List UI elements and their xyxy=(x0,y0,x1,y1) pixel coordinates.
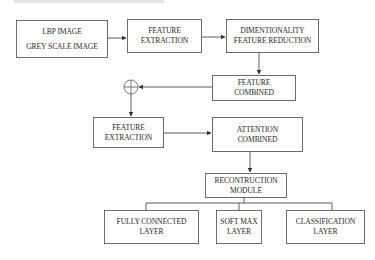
fully-connected-layer-node: FULLY CONNECTED LAYER xyxy=(104,210,199,244)
node-label-line: SOFT MAX xyxy=(220,217,257,227)
feature-extraction-node-2: FEATURE EXTRACTION xyxy=(93,117,164,148)
node-label-line: FEATURE REDUCTION xyxy=(234,36,311,46)
reconstruction-module-node: RECONTRUCTION MODULE xyxy=(205,173,287,198)
sum-junction-icon xyxy=(124,80,138,94)
node-label-line: EXTRACTION xyxy=(141,36,189,46)
node-label-line: DIMENTIONALITY xyxy=(240,26,304,36)
node-label-line: LAYER xyxy=(313,227,337,237)
node-label-line: FEATURE xyxy=(148,26,181,36)
node-label-line: EXTRACTION xyxy=(105,133,153,143)
attention-combined-node: ATTENTION COMBINED xyxy=(212,117,303,152)
node-label-line: COMBINED xyxy=(234,88,274,98)
node-label-line: ATTENTION xyxy=(237,125,278,135)
node-label-line: MODULE xyxy=(230,186,262,196)
node-label-line: FEATURE xyxy=(238,78,271,88)
classification-layer-node: CLASSIFICATION LAYER xyxy=(286,210,365,244)
node-label-line: COMBINED xyxy=(238,135,278,145)
node-label-line: FEATURE xyxy=(112,123,145,133)
softmax-layer-node: SOFT MAX LAYER xyxy=(216,210,262,244)
feature-extraction-node-1: FEATURE EXTRACTION xyxy=(127,19,202,53)
input-image-node: LBP IMAGE GREY SCALE IMAGE xyxy=(16,20,108,58)
feature-combined-node: FEATURE COMBINED xyxy=(212,75,296,101)
node-label-line: RECONTRUCTION xyxy=(215,176,278,186)
node-label-line: FULLY CONNECTED xyxy=(117,217,187,227)
node-label-line: CLASSIFICATION xyxy=(296,217,355,227)
node-label-line: LBP IMAGE xyxy=(42,27,82,37)
node-label-line: LAYER xyxy=(139,227,163,237)
node-label-line: LAYER xyxy=(227,227,251,237)
dimensionality-reduction-node: DIMENTIONALITY FEATURE REDUCTION xyxy=(226,19,319,53)
node-label-line: GREY SCALE IMAGE xyxy=(26,42,98,52)
